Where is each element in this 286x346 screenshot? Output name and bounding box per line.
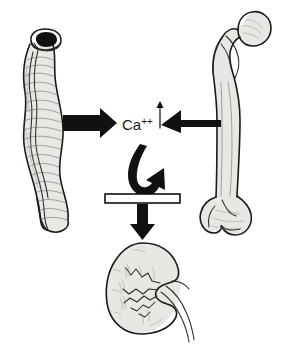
horizontal-bar [105,194,180,203]
calcium-element: Ca [122,116,142,133]
calcium-charge: ++ [141,116,153,127]
figure-canvas: Ca++ [0,0,286,346]
barrier-bar-rect [105,194,180,203]
calcium-homeostasis-figure: Ca++ [0,0,286,346]
